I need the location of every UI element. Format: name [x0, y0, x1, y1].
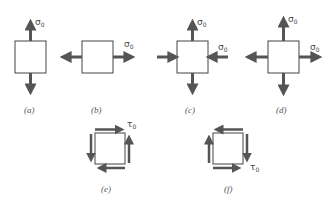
element-box — [177, 41, 208, 73]
panel-label: (a) — [24, 105, 35, 115]
panel-c: σ0 σ0 (c) — [157, 17, 228, 115]
figure-canvas: σ0 (a) σ0 (b) σ0 σ0 (c) σ0 σ0 (d) — [0, 0, 333, 204]
panel-label: (b) — [91, 105, 102, 115]
element-box — [213, 133, 243, 164]
panel-label: (e) — [101, 184, 111, 194]
stress-states-figure: σ0 (a) σ0 (b) σ0 σ0 (c) σ0 σ0 (d) — [0, 0, 333, 204]
panel-d: σ0 σ0 (d) — [250, 14, 320, 115]
panel-label: (f) — [224, 184, 233, 194]
panel-label: (d) — [276, 105, 287, 115]
element-box — [15, 41, 46, 73]
sigma-label: σ0 — [124, 39, 134, 50]
element-box — [82, 41, 113, 73]
panel-f: τ0 (f) — [209, 130, 259, 195]
element-box — [95, 133, 125, 164]
panel-label: (c) — [185, 105, 195, 115]
sigma-right-label: σ0 — [310, 42, 320, 53]
sigma-right-label: σ0 — [218, 42, 228, 53]
sigma-label: σ0 — [35, 17, 45, 28]
panel-e: τ0 (e) — [91, 119, 136, 194]
sigma-top-label: σ0 — [197, 17, 207, 28]
tau-label: τ0 — [250, 162, 259, 173]
element-box — [268, 41, 299, 73]
tau-label: τ0 — [127, 119, 136, 130]
panel-a: σ0 (a) — [15, 17, 46, 115]
sigma-top-label: σ0 — [288, 14, 298, 25]
panel-b: σ0 (b) — [65, 39, 134, 115]
